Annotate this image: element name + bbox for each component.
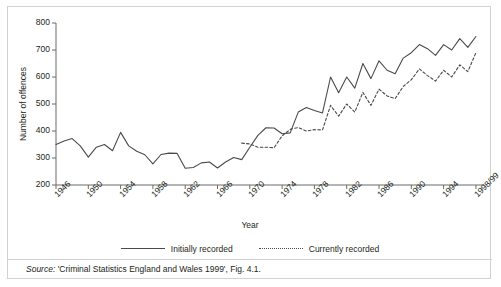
source-note: Source: 'Criminal Statistics England and… — [26, 264, 261, 274]
axes-group — [52, 23, 484, 189]
legend-entry: Initially recorded — [121, 244, 233, 254]
x-axis-title: Year — [8, 220, 492, 230]
series-group — [56, 37, 476, 169]
source-label: Source: — [26, 264, 55, 274]
source-citation: 'Criminal Statistics England and Wales 1… — [55, 264, 261, 274]
series-line-1 — [56, 37, 476, 169]
legend-swatch-solid — [121, 248, 165, 250]
chart-legend: Initially recordedCurrently recorded — [8, 239, 492, 259]
chart-svg — [8, 7, 492, 239]
y-axis-title: Number of offences — [18, 44, 28, 164]
source-divider — [8, 259, 492, 260]
chart-plot-area: 200300400500600700800 194619501954195819… — [8, 7, 492, 239]
series-line-2 — [242, 53, 476, 148]
legend-swatch-dotted — [259, 248, 303, 250]
legend-label: Currently recorded — [309, 244, 379, 254]
figure-frame: 200300400500600700800 194619501954195819… — [7, 6, 491, 279]
legend-label: Initially recorded — [171, 244, 233, 254]
y-tick-label: 200 — [20, 180, 50, 189]
legend-entry: Currently recorded — [259, 244, 379, 254]
y-tick-label: 800 — [20, 18, 50, 27]
